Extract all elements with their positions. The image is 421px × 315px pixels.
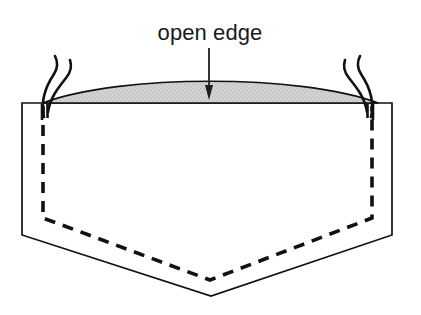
- open-edge-diagram: open edge: [0, 0, 421, 315]
- open-edge-label: open edge: [158, 20, 263, 45]
- fabric-outline: [22, 103, 392, 296]
- figure-container: open edge: [0, 0, 421, 315]
